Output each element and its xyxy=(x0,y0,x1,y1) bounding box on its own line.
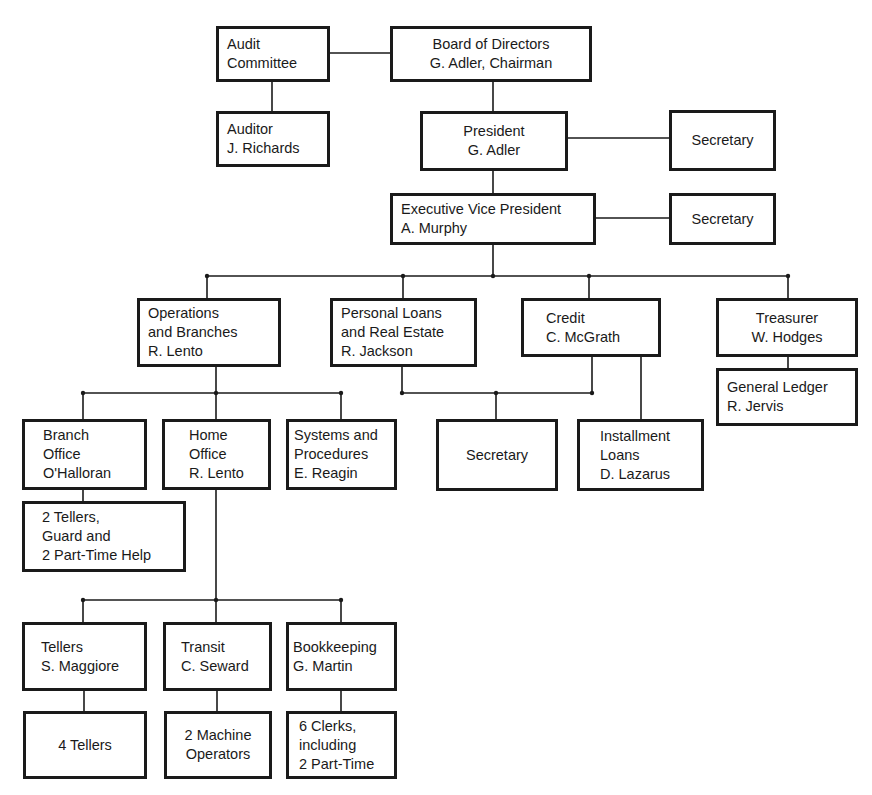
node-label: Credit xyxy=(546,309,585,328)
node-label: 2 Part-Time Help xyxy=(42,546,151,565)
node-bookkeeping-staff: 6 Clerks, including 2 Part-Time xyxy=(286,711,397,779)
node-label: J. Richards xyxy=(227,139,300,158)
node-transit: Transit C. Seward xyxy=(163,622,272,691)
node-label: E. Reagin xyxy=(294,464,358,483)
node-label: Auditor xyxy=(227,120,273,139)
node-label: Secretary xyxy=(691,131,753,150)
node-installment-loans: Installment Loans D. Lazarus xyxy=(577,419,704,491)
node-label: Systems and xyxy=(294,426,378,445)
node-label: Loans xyxy=(600,446,640,465)
node-label: Audit xyxy=(227,35,260,54)
node-branch-staff: 2 Tellers, Guard and 2 Part-Time Help xyxy=(22,501,186,572)
node-auditor: Auditor J. Richards xyxy=(216,111,330,167)
node-label: W. Hodges xyxy=(752,328,823,347)
node-general-ledger: General Ledger R. Jervis xyxy=(716,368,858,426)
node-label: R. Lento xyxy=(148,342,203,361)
node-label: Branch xyxy=(43,426,89,445)
node-label: Office xyxy=(189,445,227,464)
node-tellers: Tellers S. Maggiore xyxy=(22,622,147,691)
node-label: G. Martin xyxy=(293,657,353,676)
node-audit-committee: Audit Committee xyxy=(216,26,330,82)
node-label: Personal Loans xyxy=(341,304,442,323)
node-label: R. Lento xyxy=(189,464,244,483)
node-label: G. Adler xyxy=(468,141,520,160)
node-label: 2 Machine xyxy=(185,726,252,745)
node-personal-loans: Personal Loans and Real Estate R. Jackso… xyxy=(330,298,477,367)
node-label: President xyxy=(463,122,524,141)
node-systems-and-procedures: Systems and Procedures E. Reagin xyxy=(286,419,397,490)
node-executive-vice-president: Executive Vice President A. Murphy xyxy=(390,193,596,245)
node-bookkeeping: Bookkeeping G. Martin xyxy=(286,622,397,691)
node-label: Secretary xyxy=(691,210,753,229)
node-credit: Credit C. McGrath xyxy=(521,298,661,357)
node-loans-secretary: Secretary xyxy=(436,419,558,491)
node-label: Operations xyxy=(148,304,219,323)
node-label: Office xyxy=(43,445,81,464)
node-label: Guard and xyxy=(42,527,111,546)
node-label: R. Jackson xyxy=(341,342,413,361)
node-evp-secretary: Secretary xyxy=(669,193,776,245)
node-treasurer: Treasurer W. Hodges xyxy=(716,298,858,357)
node-tellers-staff: 4 Tellers xyxy=(23,711,147,779)
node-branch-office: Branch Office O'Halloran xyxy=(22,419,147,490)
node-label: C. Seward xyxy=(181,657,249,676)
node-president-secretary: Secretary xyxy=(669,110,776,171)
node-label: Home xyxy=(189,426,228,445)
node-transit-staff: 2 Machine Operators xyxy=(164,711,272,779)
node-home-office: Home Office R. Lento xyxy=(162,419,271,490)
node-label: Bookkeeping xyxy=(293,638,377,657)
node-label: C. McGrath xyxy=(546,328,620,347)
node-board-of-directors: Board of Directors G. Adler, Chairman xyxy=(390,26,592,82)
node-label: Treasurer xyxy=(756,309,818,328)
node-label: 2 Tellers, xyxy=(42,508,100,527)
node-label: D. Lazarus xyxy=(600,465,670,484)
node-label: and Real Estate xyxy=(341,323,444,342)
node-label: Tellers xyxy=(41,638,83,657)
node-label: Executive Vice President xyxy=(401,200,561,219)
node-label: Operators xyxy=(186,745,250,764)
node-label: 4 Tellers xyxy=(58,736,112,755)
node-label: Procedures xyxy=(294,445,368,464)
node-label: R. Jervis xyxy=(727,397,783,416)
node-label: Committee xyxy=(227,54,297,73)
node-label: including xyxy=(299,736,356,755)
node-label: O'Halloran xyxy=(43,464,111,483)
node-label: Installment xyxy=(600,427,670,446)
node-president: President G. Adler xyxy=(420,111,568,171)
node-label: A. Murphy xyxy=(401,219,467,238)
node-label: 6 Clerks, xyxy=(299,717,356,736)
node-label: G. Adler, Chairman xyxy=(430,54,553,73)
node-label: Transit xyxy=(181,638,225,657)
node-label: S. Maggiore xyxy=(41,657,119,676)
node-label: Secretary xyxy=(466,446,528,465)
node-label: 2 Part-Time xyxy=(299,755,374,774)
node-operations-and-branches: Operations and Branches R. Lento xyxy=(137,298,281,367)
node-label: Board of Directors xyxy=(433,35,550,54)
org-chart: Audit Committee Board of Directors G. Ad… xyxy=(0,0,872,795)
node-label: and Branches xyxy=(148,323,237,342)
node-label: General Ledger xyxy=(727,378,828,397)
